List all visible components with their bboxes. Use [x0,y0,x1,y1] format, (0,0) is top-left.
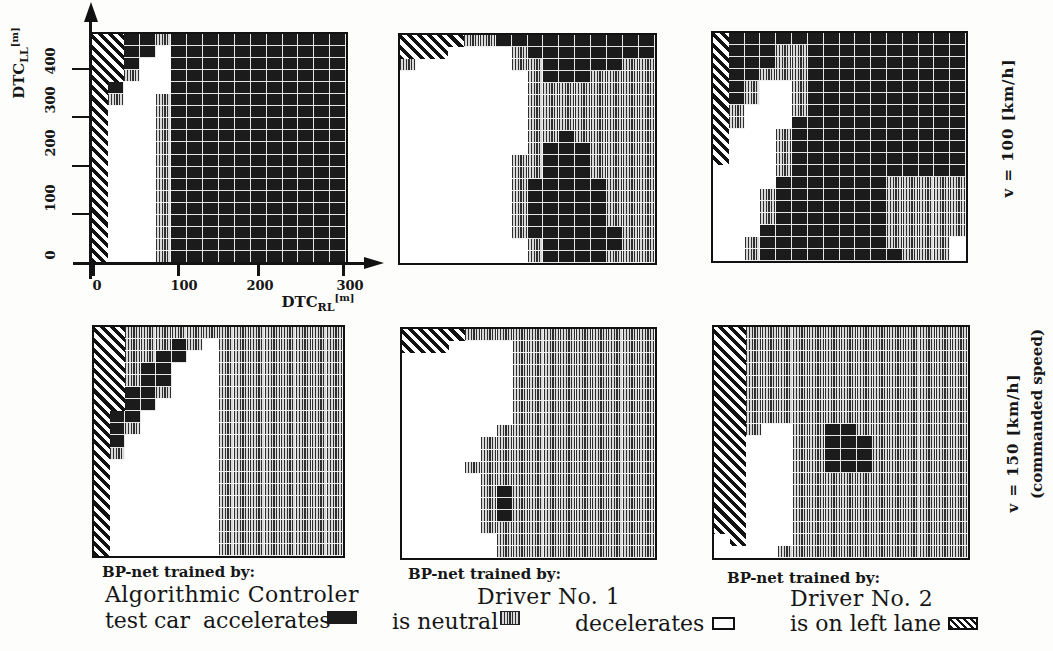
cell-neutral [778,351,794,363]
cell-neutral [639,107,655,119]
cell-accelerates [919,153,935,165]
cell-left-lane [92,58,108,70]
cell-decelerates [400,251,416,263]
cell-neutral [841,497,857,509]
cell-decelerates [432,203,448,215]
cell-accelerates [792,237,808,249]
cell-neutral [281,339,297,351]
cell-decelerates [125,448,141,460]
cell-decelerates [416,239,432,251]
cell-neutral [809,388,825,400]
cell-neutral [576,341,592,353]
cell-neutral [905,388,921,400]
cell-accelerates [808,45,824,57]
cell-decelerates [448,215,464,227]
cell-neutral [544,522,560,534]
cell-accelerates [934,117,950,129]
cell-neutral [481,510,497,522]
cell-neutral [639,131,655,143]
cell-neutral [776,57,792,69]
cell-neutral [575,95,591,107]
cell-neutral [746,339,762,351]
cell-accelerates [543,47,559,59]
cell-accelerates [298,70,314,82]
cell-decelerates [449,401,465,413]
cell-decelerates [418,522,434,534]
cell-neutral [575,83,591,95]
x-tick-label: 100 [170,279,197,292]
cell-decelerates [481,353,497,365]
cell-neutral [265,375,281,387]
cell-neutral [809,485,825,497]
cell-neutral [312,399,328,411]
cell-left-lane [94,339,110,351]
cell-accelerates [871,57,887,69]
cell-neutral [327,423,343,435]
cell-decelerates [760,141,776,153]
cell-accelerates [934,129,950,141]
cell-decelerates [480,71,496,83]
cell-neutral [481,486,497,498]
cell-decelerates [416,179,432,191]
cell-decelerates [110,544,126,556]
cell-neutral [841,363,857,375]
cell-accelerates [776,213,792,225]
cell-neutral [576,450,592,462]
cell-accelerates [330,34,346,46]
cell-decelerates [125,496,141,508]
cell-decelerates [124,82,140,94]
cell-accelerates [575,35,591,47]
cell-neutral [778,376,794,388]
cell-neutral [778,339,794,351]
cell-decelerates [203,399,219,411]
cell-accelerates [314,203,330,215]
cell-neutral [873,509,889,521]
cell-decelerates [496,107,512,119]
cell-left-lane [94,435,110,447]
cell-neutral [952,424,968,436]
cell-neutral [745,249,761,261]
cell-decelerates [156,496,172,508]
cell-accelerates [607,47,623,59]
cell-neutral [776,141,792,153]
cell-accelerates [841,424,857,436]
cell-neutral [560,401,576,413]
cell-left-lane [108,34,124,46]
cell-accelerates [171,34,187,46]
cell-decelerates [402,425,418,437]
cell-accelerates [808,33,824,45]
cell-decelerates [140,142,156,154]
cell-neutral [156,327,172,339]
cell-decelerates [762,534,778,546]
cell-neutral [905,351,921,363]
cell-decelerates [512,83,528,95]
cell-neutral [250,351,266,363]
cell-accelerates [219,70,235,82]
cell-accelerates [187,142,203,154]
cell-accelerates [607,227,623,239]
cell-neutral [592,462,608,474]
cell-accelerates [840,81,856,93]
cell-neutral [623,474,639,486]
cell-neutral [592,498,608,510]
cell-accelerates [267,167,283,179]
cell-neutral [745,93,761,105]
cell-accelerates [187,58,203,70]
cell-left-lane [92,239,108,251]
cell-neutral [952,388,968,400]
cell-neutral [529,522,545,534]
cell-neutral [873,485,889,497]
cell-accelerates [235,118,251,130]
cell-decelerates [400,95,416,107]
cell-neutral [575,131,591,143]
cell-accelerates [808,237,824,249]
y-tick-label: 300 [44,86,57,113]
cell-neutral [793,522,809,534]
cell-decelerates [464,155,480,167]
cell-decelerates [449,522,465,534]
cell-neutral [762,351,778,363]
cell-accelerates [187,34,203,46]
cell-accelerates [172,351,188,363]
cell-decelerates [762,485,778,497]
y-axis-title-unit: [m] [9,27,20,47]
